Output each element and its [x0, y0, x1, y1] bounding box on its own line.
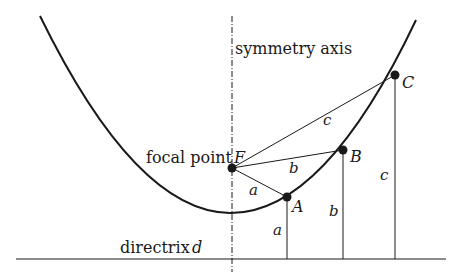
focal-segment-c-label: c [323, 111, 332, 129]
focal-point-label: focal point [146, 148, 233, 167]
symmetry-axis-label: symmetry axis [235, 39, 352, 58]
point-b-label: B [349, 147, 362, 166]
parabola-curve [40, 16, 416, 213]
focal-segment-c [232, 75, 395, 168]
directrix-segment-b-label: b [329, 202, 339, 220]
parabola-diagram: symmetry axis focal point F directrix d … [0, 0, 455, 279]
point-b [339, 146, 348, 155]
focal-segment-a-label: a [249, 181, 258, 199]
focus-label: F [233, 148, 246, 167]
directrix-name-label: d [192, 238, 202, 257]
focal-segment-b-label: b [289, 159, 299, 177]
directrix-segment-c-label: c [380, 166, 389, 184]
directrix-label: directrix [120, 238, 190, 257]
point-a-label: A [290, 197, 304, 216]
directrix-segment-a-label: a [273, 221, 282, 239]
point-c-label: C [402, 73, 414, 92]
point-c [391, 71, 400, 80]
point-a [283, 193, 292, 202]
focal-segment-a [232, 168, 287, 197]
